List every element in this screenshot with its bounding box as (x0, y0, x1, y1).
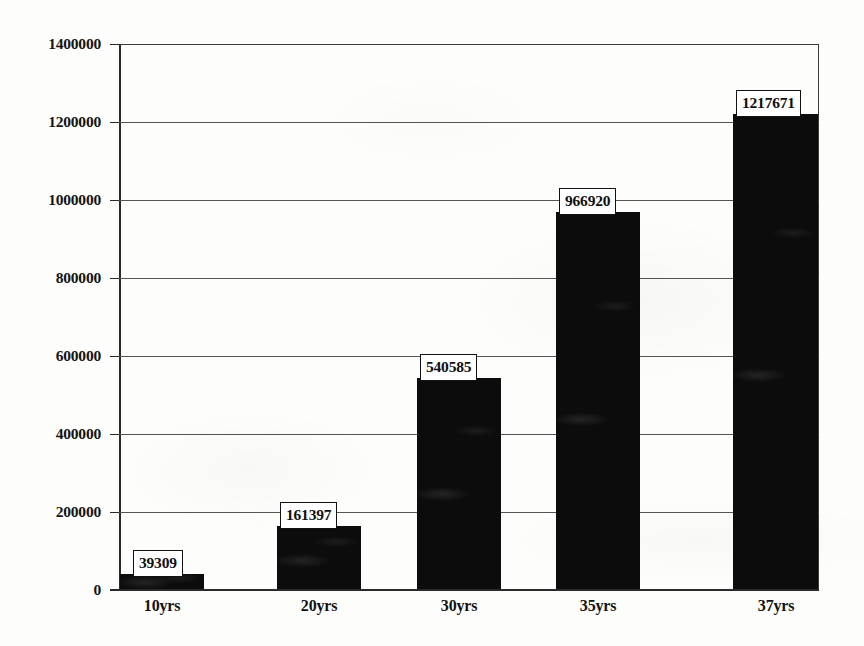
bar-texture (277, 526, 361, 589)
y-tick-label: 1400000 (48, 35, 101, 53)
y-tick-mark (110, 356, 119, 357)
bar-30yrs (417, 378, 501, 589)
gridline-1400000 (119, 44, 819, 45)
y-tick-mark (110, 434, 119, 435)
bar-texture (556, 212, 640, 589)
gridline-1000000 (119, 200, 819, 201)
y-axis-tick-labels: 1400000 1200000 1000000 800000 600000 40… (0, 44, 101, 590)
plot-area: 39309 161397 540585 966920 1217671 (119, 44, 819, 590)
value-label-37yrs: 1217671 (736, 90, 801, 117)
y-tick-label: 800000 (56, 269, 101, 287)
value-label-35yrs: 966920 (559, 188, 616, 215)
x-tick-label-35yrs: 35yrs (580, 597, 616, 615)
x-tick-label-20yrs: 20yrs (301, 597, 337, 615)
y-tick-mark (110, 278, 119, 279)
bar-37yrs (733, 114, 818, 589)
y-tick-label: 1200000 (48, 113, 101, 131)
value-label-30yrs: 540585 (420, 354, 477, 381)
bar-texture (733, 114, 818, 589)
y-tick-mark (110, 44, 119, 45)
bar-texture (417, 378, 501, 589)
bar-20yrs (277, 526, 361, 589)
value-label-10yrs: 39309 (133, 550, 183, 577)
y-axis-line (119, 44, 121, 590)
y-tick-label: 0 (93, 581, 101, 599)
y-tick-mark (110, 512, 119, 513)
x-tick-label-30yrs: 30yrs (441, 597, 477, 615)
gridline-1200000 (119, 122, 819, 123)
value-label-20yrs: 161397 (280, 502, 337, 529)
plot-right-border (818, 44, 819, 590)
x-tick-label-10yrs: 10yrs (144, 597, 180, 615)
y-tick-label: 200000 (56, 503, 101, 521)
y-tick-label: 1000000 (48, 191, 101, 209)
y-tick-mark (110, 200, 119, 201)
gridline-800000 (119, 278, 819, 279)
bar-35yrs (556, 212, 640, 589)
y-tick-label: 400000 (56, 425, 101, 443)
y-tick-label: 600000 (56, 347, 101, 365)
y-axis-zero-tick (110, 589, 119, 591)
y-tick-mark (110, 122, 119, 123)
bar-chart-figure: 1400000 1200000 1000000 800000 600000 40… (0, 0, 864, 646)
x-axis-line (119, 589, 819, 591)
x-tick-label-37yrs: 37yrs (758, 597, 794, 615)
